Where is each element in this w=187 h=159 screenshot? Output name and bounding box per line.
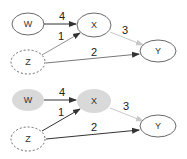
edge-label-w-x: 4 bbox=[59, 10, 65, 22]
diagram-bottom: W X Z Y 4 1 2 3 bbox=[11, 86, 176, 151]
edge-label-z-x: 1 bbox=[58, 30, 64, 42]
node-y-label: Y bbox=[155, 46, 161, 56]
node-x-label: X bbox=[91, 96, 97, 106]
node-y-label: Y bbox=[155, 121, 161, 131]
node-z-label: Z bbox=[25, 57, 31, 67]
node-x-label: X bbox=[91, 20, 97, 30]
edge-label-z-y: 2 bbox=[91, 46, 97, 58]
edge-label-x-y: 3 bbox=[123, 100, 129, 112]
node-z-label: Z bbox=[25, 134, 31, 144]
node-w-label: W bbox=[24, 19, 33, 29]
causal-diagrams: W X Z Y 4 1 2 3 W X Z Y 4 1 2 3 bbox=[0, 0, 187, 159]
diagram-top: W X Z Y 4 1 2 3 bbox=[11, 10, 176, 74]
edge-label-z-x: 1 bbox=[58, 106, 64, 118]
node-w-label: W bbox=[24, 95, 33, 105]
edge-label-x-y: 3 bbox=[122, 24, 128, 36]
edge-label-z-y: 2 bbox=[91, 121, 97, 133]
edge-label-w-x: 4 bbox=[59, 86, 65, 98]
